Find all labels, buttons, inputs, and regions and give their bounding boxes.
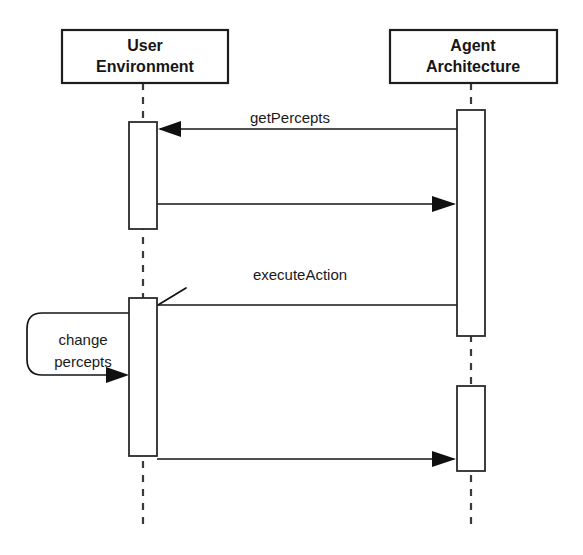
- participant-user-environment[interactable]: User Environment: [62, 30, 228, 83]
- lifelines: [143, 83, 471, 531]
- sequence-diagram: User Environment Agent Architecture getP…: [0, 0, 583, 555]
- message-label-get-percepts: getPercepts: [250, 109, 330, 126]
- participant-label-agent-architecture-line1: Agent: [450, 37, 496, 54]
- arrowhead-open-left-execute-action: [158, 288, 186, 305]
- activation-user-environment-2: [129, 298, 157, 456]
- participant-label-agent-architecture-line2: Architecture: [426, 58, 520, 75]
- activation-agent-architecture-2: [457, 386, 485, 471]
- participant-boxes: User Environment Agent Architecture: [62, 30, 557, 83]
- arrowhead-filled-right-percepts-return: [432, 196, 456, 212]
- activation-agent-architecture-1: [457, 110, 485, 336]
- self-message-change-percepts[interactable]: [27, 313, 129, 383]
- arrowhead-filled-left-get-percepts: [158, 121, 181, 137]
- self-message-label-change-percepts-line2: percepts: [54, 353, 112, 370]
- sequence-diagram-canvas: User Environment Agent Architecture getP…: [0, 0, 583, 555]
- arrowhead-filled-right-action-result: [432, 451, 456, 467]
- messages: [157, 121, 457, 467]
- activation-user-environment-1: [129, 122, 157, 229]
- message-execute-action[interactable]: [158, 288, 457, 305]
- self-message-label-change-percepts-line1: change: [58, 331, 107, 348]
- message-percepts-return[interactable]: [157, 196, 456, 212]
- participant-label-user-environment-line1: User: [127, 37, 163, 54]
- message-labels: getPercepts executeAction change percept…: [54, 109, 347, 370]
- message-action-result[interactable]: [157, 451, 456, 467]
- participant-label-user-environment-line2: Environment: [96, 58, 194, 75]
- participant-agent-architecture[interactable]: Agent Architecture: [390, 30, 557, 83]
- message-label-execute-action: executeAction: [253, 266, 347, 283]
